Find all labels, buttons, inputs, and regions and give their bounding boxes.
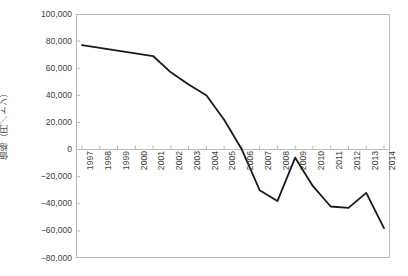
y-tick-label: 60,000 xyxy=(14,64,72,73)
x-tick-label: 2000 xyxy=(140,151,149,170)
y-tick-label: −80,000 xyxy=(14,254,72,263)
x-tick-label: 1997 xyxy=(86,151,95,170)
y-tick-label: 20,000 xyxy=(14,118,72,127)
x-tick-label: 2011 xyxy=(335,151,344,169)
y-tick-label: −20,000 xyxy=(14,172,72,181)
y-axis-tick-marks xyxy=(76,41,80,231)
x-axis-tick-labels: 1997199819992000200120022003200420052006… xyxy=(76,151,390,201)
x-tick-label: 1998 xyxy=(104,151,113,170)
y-axis-title: 価格（円／トン） xyxy=(1,88,15,160)
x-tick-label: 2012 xyxy=(353,151,362,170)
plot-series-canvas xyxy=(76,14,390,258)
x-tick-label: 2005 xyxy=(228,151,237,170)
y-tick-label: 0 xyxy=(14,145,72,154)
x-tick-label: 2002 xyxy=(175,151,184,170)
x-tick-label: 2014 xyxy=(388,151,397,170)
x-tick-label: 2010 xyxy=(317,151,326,170)
y-axis-tick-labels: 100,00080,00060,00040,00020,0000−20,000−… xyxy=(14,0,72,276)
x-tick-label: 2013 xyxy=(371,151,380,170)
y-tick-label: −60,000 xyxy=(14,226,72,235)
y-tick-label: 40,000 xyxy=(14,91,72,100)
x-tick-label: 2009 xyxy=(299,151,308,170)
x-tick-label: 2006 xyxy=(246,151,255,170)
x-tick-label: 2003 xyxy=(193,151,202,170)
y-tick-label: 100,000 xyxy=(14,10,72,19)
x-tick-label: 2001 xyxy=(157,151,166,170)
x-tick-label: 2008 xyxy=(282,151,291,170)
y-tick-label: 80,000 xyxy=(14,37,72,46)
x-tick-label: 2007 xyxy=(264,151,273,170)
x-tick-label: 1999 xyxy=(122,151,131,170)
line-chart-figure: 価格（円／トン） 100,00080,00060,00040,00020,000… xyxy=(0,0,408,276)
x-tick-label: 2004 xyxy=(211,151,220,170)
y-tick-label: −40,000 xyxy=(14,199,72,208)
x-axis-tick-marks xyxy=(76,146,390,150)
